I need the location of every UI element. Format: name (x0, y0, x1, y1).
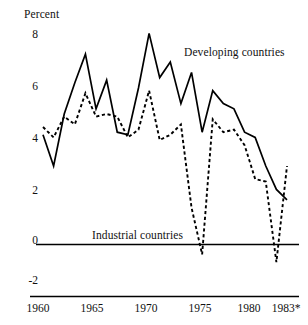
chart-plot-area (0, 0, 308, 325)
line-developing-countries (43, 33, 287, 199)
line-industrial-countries (43, 91, 287, 263)
chart-figure: Percent 8 6 4 2 0 -2 1960 1965 1970 1975… (0, 0, 308, 325)
